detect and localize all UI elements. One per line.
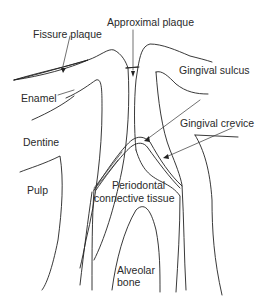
label-periodontal-line1: Periodontal — [112, 179, 165, 191]
label-alveolar-line1: Alveolar — [117, 264, 155, 276]
label-pulp: Pulp — [27, 184, 48, 196]
left-tooth-dentine-boundary — [66, 80, 102, 268]
label-approximal-plaque: Approximal plaque — [107, 16, 194, 28]
label-enamel: Enamel — [21, 92, 57, 104]
gingival-crevice-arrowhead — [163, 154, 169, 159]
label-periodontal-line2: connective tissue — [94, 192, 175, 204]
fissure-plaque-shape — [14, 60, 88, 80]
left-tooth-enamel-outline — [14, 50, 129, 260]
enamel-leader — [58, 90, 74, 95]
gingival-crevice-leader — [166, 128, 232, 157]
gingival-crevice-mark — [195, 135, 238, 137]
label-gingival-crevice: Gingival crevice — [180, 117, 254, 129]
tooth-anatomy-diagram: Approximal plaque Fissure plaque Gingiva… — [0, 0, 267, 303]
gingival-sulcus-arrowhead — [144, 136, 150, 142]
approximal-plaque-arrowhead — [131, 71, 135, 77]
fissure-plaque-leader — [63, 36, 70, 66]
label-alveolar-line2: bone — [117, 276, 140, 288]
far-right-wall — [195, 135, 222, 295]
left-tooth-pulp-outline — [20, 156, 62, 290]
diagram-drawing — [0, 0, 267, 303]
label-dentine: Dentine — [23, 136, 59, 148]
left-root-edge — [80, 192, 92, 285]
fissure-plaque-arrowhead — [61, 68, 66, 73]
label-gingival-sulcus: Gingival sulcus — [179, 64, 250, 76]
label-fissure-plaque: Fissure plaque — [33, 28, 102, 40]
